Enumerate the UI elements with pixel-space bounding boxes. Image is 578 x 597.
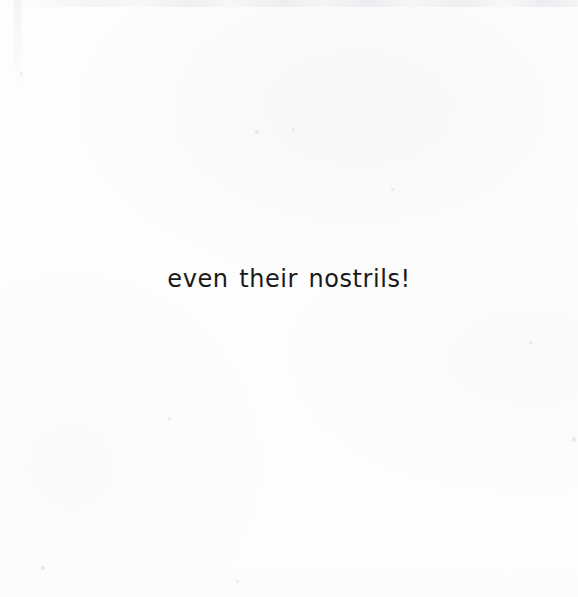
scanned-page: even their nostrils! <box>0 0 578 597</box>
body-text-line: even their nostrils! <box>0 265 578 293</box>
text-layer: even their nostrils! <box>0 0 578 597</box>
